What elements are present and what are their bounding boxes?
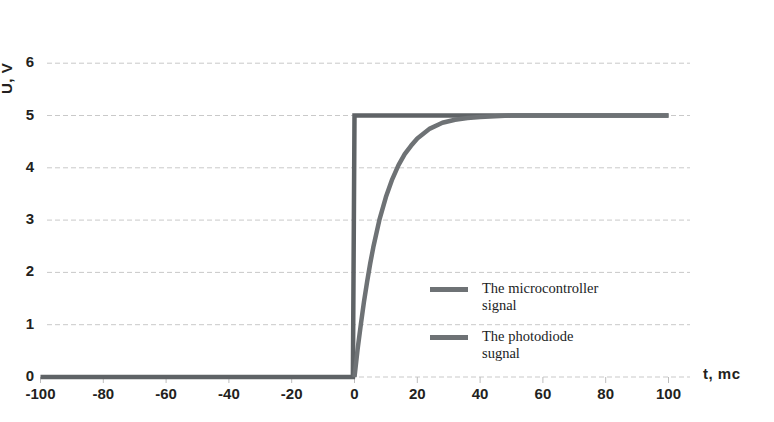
x-tick-label: -100 <box>11 385 71 402</box>
x-tick-label: 80 <box>576 385 636 402</box>
legend-color-swatch <box>430 287 468 292</box>
y-tick-label: 3 <box>8 210 34 227</box>
y-tick-label: 5 <box>8 106 34 123</box>
y-tick-label: 1 <box>8 315 34 332</box>
x-tick-label: 0 <box>325 385 385 402</box>
legend-item-label: The microcontroller signal <box>482 280 598 314</box>
x-tick-label: 40 <box>450 385 510 402</box>
legend-item: The photodiode sugnal <box>430 328 660 362</box>
chart-legend: The microcontroller signalThe photodiode… <box>430 280 660 376</box>
legend-item: The microcontroller signal <box>430 280 660 314</box>
y-tick-label: 6 <box>8 53 34 70</box>
x-tick-label: -40 <box>199 385 259 402</box>
x-tick-label: -60 <box>136 385 196 402</box>
y-tick-label: 0 <box>8 367 34 384</box>
legend-item-label: The photodiode sugnal <box>482 328 573 362</box>
x-tick-label: 20 <box>387 385 447 402</box>
y-tick-label: 2 <box>8 262 34 279</box>
x-tick-label: 100 <box>639 385 699 402</box>
chart-figure: U, V t, mc 0123456 -100-80-60-40-2002040… <box>0 0 774 422</box>
legend-color-swatch <box>430 335 468 340</box>
x-tick-label: -80 <box>73 385 133 402</box>
x-tick-label: 60 <box>513 385 573 402</box>
y-tick-label: 4 <box>8 158 34 175</box>
x-tick-label: -20 <box>262 385 322 402</box>
